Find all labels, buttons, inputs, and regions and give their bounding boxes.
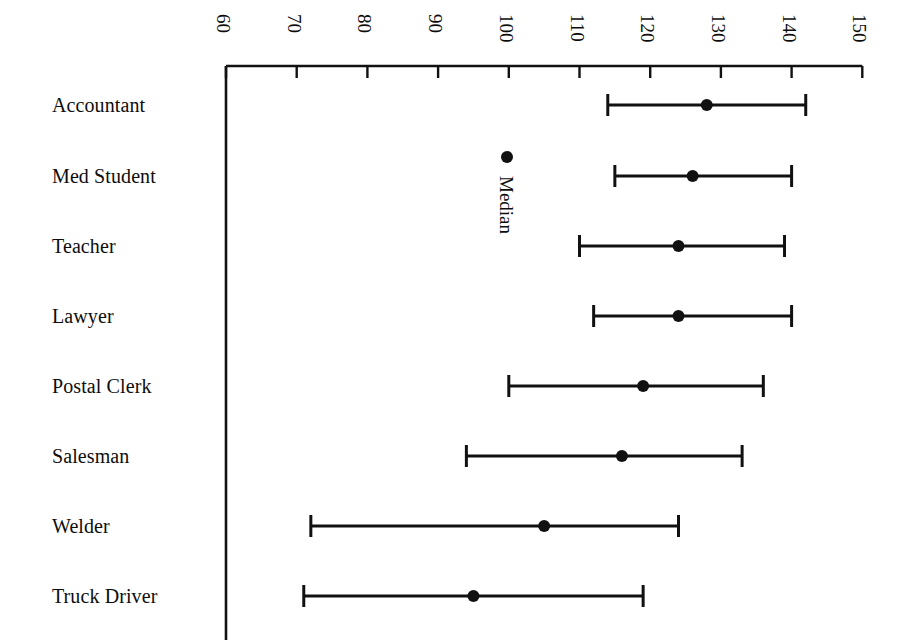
median-marker [616,450,628,462]
median-marker [701,99,713,111]
data-row [509,375,764,397]
category-label: Med Student [52,166,156,186]
category-label: Postal Clerk [52,376,152,396]
axis-layer [226,66,862,640]
chart-root: 60708090100110120130140150 AccountantMed… [0,0,903,640]
x-tick-label-70: 70 [285,14,304,33]
median-legend-dot [501,151,513,163]
x-tick-label-110: 110 [568,14,587,42]
x-tick-label-140: 140 [780,14,799,43]
x-tick-label-90: 90 [426,14,445,33]
median-marker [672,310,684,322]
data-row [466,445,742,467]
x-tick-label-120: 120 [638,14,657,43]
x-tick-label-80: 80 [355,14,374,33]
category-label: Teacher [52,236,116,256]
x-tick-label-130: 130 [709,14,728,43]
x-tick-label-100: 100 [497,14,516,43]
data-row [580,235,785,257]
data-row [615,165,792,187]
data-row [304,585,643,607]
x-tick-label-60: 60 [214,14,233,33]
data-row [608,94,806,116]
category-label: Truck Driver [52,586,157,606]
x-tick-label-150: 150 [850,14,869,43]
median-marker [467,590,479,602]
category-label: Lawyer [52,306,114,326]
median-marker [672,240,684,252]
data-row [594,305,792,327]
category-label: Accountant [52,95,145,115]
median-marker [538,520,550,532]
data-rows-layer [304,94,806,607]
data-row [311,515,679,537]
median-marker [687,170,699,182]
median-marker [637,380,649,392]
annotation-layer [501,151,513,163]
median-legend-label: Median [497,176,516,234]
category-label: Welder [52,516,110,536]
category-label: Salesman [52,446,129,466]
